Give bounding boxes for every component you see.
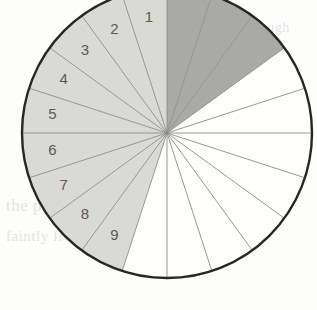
sector-label-4: 4 — [59, 70, 67, 87]
sector-circle-figure: bleed through the printed text shows thr… — [0, 0, 317, 310]
sector-label-7: 7 — [59, 176, 67, 193]
sector-label-5: 5 — [48, 105, 56, 122]
sector-label-1: 1 — [145, 8, 153, 25]
sector-label-2: 2 — [110, 20, 118, 37]
sector-label-8: 8 — [81, 205, 89, 222]
sector-circle-svg: 123456789 — [0, 0, 317, 310]
sector-label-6: 6 — [48, 141, 56, 158]
sector-label-9: 9 — [110, 226, 118, 243]
sector-label-3: 3 — [81, 41, 89, 58]
